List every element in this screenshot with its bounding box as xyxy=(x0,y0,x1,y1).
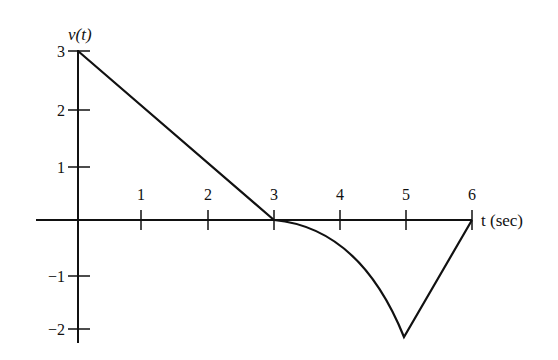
x-tick-label: 1 xyxy=(137,186,145,203)
y-axis-label: v(t) xyxy=(68,25,92,44)
y-tick-label: 1 xyxy=(57,159,65,176)
velocity-chart: 1 2 3 4 5 6 3 2 1 −1 −2 v(t) t (sec) xyxy=(0,0,558,360)
y-tick-label: 2 xyxy=(57,102,65,119)
x-tick-label: 4 xyxy=(336,186,344,203)
y-tick-label: −2 xyxy=(48,321,65,338)
x-tick-label: 5 xyxy=(402,186,410,203)
y-tick-label: −1 xyxy=(48,268,65,285)
x-tick-label: 2 xyxy=(204,186,212,203)
y-tick-label: 3 xyxy=(57,43,65,60)
x-axis-label: t (sec) xyxy=(481,211,523,230)
x-tick-label: 3 xyxy=(270,186,278,203)
x-tick-label: 6 xyxy=(468,186,476,203)
